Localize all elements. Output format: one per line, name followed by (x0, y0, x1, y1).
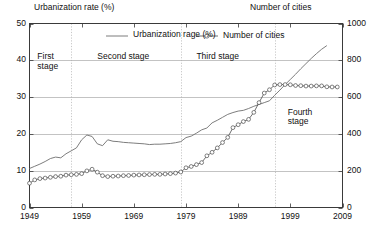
data-point-marker (163, 172, 167, 176)
data-point-marker (116, 174, 120, 178)
data-point-marker (231, 126, 235, 130)
data-point-marker (278, 83, 282, 87)
data-point-marker (122, 174, 126, 178)
right-axis-tick-label: 600 (347, 92, 377, 102)
data-point-marker (54, 175, 58, 179)
left-axis-tick-label: 10 (6, 166, 26, 176)
data-point-marker (215, 146, 219, 150)
data-point-marker (299, 84, 303, 88)
x-axis-tick-label: 2009 (330, 212, 356, 222)
data-point-marker (330, 85, 334, 89)
data-point-marker (38, 177, 42, 181)
right-axis-tick-label: 800 (347, 55, 377, 65)
data-point-marker (247, 117, 251, 121)
data-point-marker (241, 120, 245, 124)
data-point-marker (111, 174, 115, 178)
data-point-marker (28, 181, 32, 185)
stage-label: Fourth stage (288, 108, 313, 127)
right-axis-tick-label: 1000 (347, 19, 377, 29)
series-line-urbanization-rate (30, 46, 327, 169)
data-point-marker (262, 91, 266, 95)
left-axis-tick-label: 50 (6, 19, 26, 29)
data-point-marker (226, 136, 230, 140)
data-point-marker (153, 172, 157, 176)
data-point-marker (132, 173, 136, 177)
data-point-marker (236, 123, 240, 127)
data-point-marker (273, 83, 277, 87)
x-axis-tick-label: 1999 (277, 212, 303, 222)
left-axis-tick-label: 30 (6, 92, 26, 102)
data-point-marker (320, 84, 324, 88)
data-point-marker (106, 175, 110, 179)
x-axis-tick-label: 1989 (225, 212, 251, 222)
data-point-marker (179, 170, 183, 174)
left-axis-tick-label: 40 (6, 55, 26, 65)
data-point-marker (142, 173, 146, 177)
x-axis-tick-label: 1979 (173, 212, 199, 222)
data-point-marker (168, 172, 172, 176)
data-point-marker (33, 178, 37, 182)
right-axis-tick-label: 400 (347, 129, 377, 139)
data-point-marker (90, 167, 94, 171)
data-point-marker (195, 163, 199, 167)
data-point-marker (252, 110, 256, 114)
data-point-marker (309, 84, 313, 88)
data-point-marker (69, 173, 73, 177)
data-point-marker (200, 161, 204, 165)
data-point-marker (283, 83, 287, 87)
data-point-marker (335, 85, 339, 89)
data-point-marker (148, 173, 152, 177)
data-point-marker (48, 175, 52, 179)
data-point-marker (95, 170, 99, 174)
series-line-number-of-cities (30, 85, 338, 184)
data-point-marker (127, 174, 131, 178)
stage-label: First stage (37, 52, 58, 71)
data-point-marker (325, 85, 329, 89)
data-point-marker (158, 172, 162, 176)
urbanization-cities-chart: Urbanization rate (%) Number of cities U… (0, 0, 386, 241)
data-point-marker (80, 172, 84, 176)
data-point-marker (315, 84, 319, 88)
data-point-marker (304, 84, 308, 88)
x-axis-tick-label: 1949 (17, 212, 43, 222)
data-point-marker (257, 101, 261, 105)
data-point-marker (137, 173, 141, 177)
legend-label-urbanization-rate: Urbanization rage (%) (133, 30, 193, 40)
data-point-marker (43, 176, 47, 180)
left-axis-tick-label: 20 (6, 129, 26, 139)
data-point-marker (268, 88, 272, 92)
stage-label: Second stage (97, 52, 149, 62)
data-point-marker (221, 141, 225, 145)
data-point-marker (174, 171, 178, 175)
data-point-marker (59, 174, 63, 178)
data-point-marker (85, 169, 89, 173)
data-point-marker (75, 172, 79, 176)
data-point-marker (294, 84, 298, 88)
right-axis-tick-label: 200 (347, 166, 377, 176)
legend-label-number-of-cities: Number of cities (223, 31, 284, 41)
stage-label: Third stage (196, 52, 239, 62)
data-point-marker (184, 166, 188, 170)
x-axis-tick-label: 1969 (121, 212, 147, 222)
data-point-marker (189, 165, 193, 169)
data-point-marker (210, 150, 214, 154)
data-point-marker (288, 83, 292, 87)
x-axis-tick-label: 1959 (69, 212, 95, 222)
data-point-marker (205, 154, 209, 158)
data-point-marker (64, 173, 68, 177)
data-point-marker (101, 174, 105, 178)
